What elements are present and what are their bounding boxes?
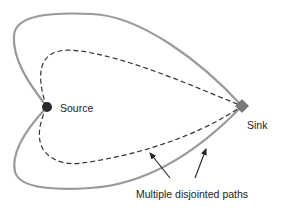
inner-path-top [41,50,242,107]
source-label: Source [60,102,93,114]
sink-label: Sink [247,119,268,131]
disjoint-paths-diagram: Source Sink Multiple disjointed paths [0,0,283,211]
outer-path-top [14,13,242,107]
source-node [42,102,52,112]
annotation-arrow-outer [195,149,206,178]
annotation-label: Multiple disjointed paths [136,188,248,200]
outer-path-bottom [14,106,242,189]
